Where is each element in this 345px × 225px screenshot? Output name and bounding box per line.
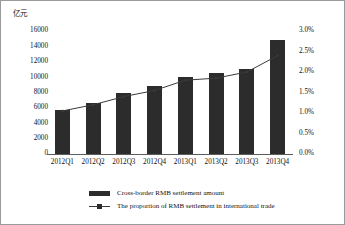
trend-markers	[61, 55, 278, 113]
left-axis-tick: 14000	[30, 43, 48, 50]
chart-container: 亿元 0200040006000800010000120001400016000…	[0, 0, 345, 225]
left-axis-tick: 6000	[34, 104, 48, 111]
trend-marker	[92, 104, 94, 106]
right-axis-tick: 2.5%	[299, 48, 314, 55]
left-axis-tick: 16000	[30, 27, 48, 34]
chart-legend: Cross-border RMB settlement amount The p…	[1, 187, 345, 213]
right-axis-tick: 1.5%	[299, 89, 314, 96]
left-axis-tick: 4000	[34, 120, 48, 127]
trend-marker	[61, 110, 63, 112]
legend-label-bar: Cross-border RMB settlement amount	[117, 189, 224, 198]
right-axis-tick: 0.0%	[299, 150, 314, 157]
legend-item-line: The proportion of RMB settlement in inte…	[1, 200, 345, 213]
category-axis-line	[47, 154, 293, 155]
trend-marker	[184, 79, 186, 81]
plot-area	[47, 31, 293, 154]
left-axis-tick: 10000	[30, 74, 48, 81]
left-axis-tick: 8000	[34, 89, 48, 96]
trend-marker	[123, 96, 125, 98]
trend-marker	[277, 55, 279, 57]
right-axis-tick: 1.0%	[299, 109, 314, 116]
trend-polyline	[62, 56, 277, 111]
line-swatch-icon	[89, 202, 110, 211]
right-axis-tick: 0.5%	[299, 130, 314, 137]
trend-marker	[246, 71, 248, 73]
bar-swatch-icon	[89, 189, 110, 198]
legend-label-line: The proportion of RMB settlement in inte…	[117, 202, 275, 211]
right-axis-tick: 2.0%	[299, 68, 314, 75]
right-axis-tick: 3.0%	[299, 27, 314, 34]
left-axis-tick: 2000	[34, 135, 48, 142]
left-axis-tick: 12000	[30, 58, 48, 65]
category-axis-label: 2013Q4	[258, 158, 298, 166]
trend-marker	[154, 89, 156, 91]
trend-marker	[215, 77, 217, 79]
line-series	[47, 31, 293, 154]
left-axis-unit-label: 亿元	[13, 7, 28, 18]
legend-item-bar: Cross-border RMB settlement amount	[1, 187, 345, 200]
